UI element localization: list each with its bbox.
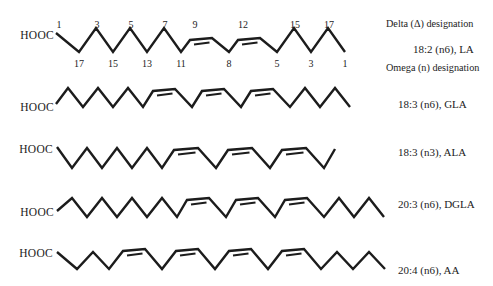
double-bond-la-2 <box>242 43 258 45</box>
carbon-chain-gla <box>56 88 350 107</box>
molecule-dgla: HOOC20:3 (n6), DGLA <box>20 198 475 218</box>
molecule-aa: HOOC20:4 (n6), AA <box>19 247 459 277</box>
carbon-chain-la <box>56 28 345 52</box>
double-bond-gla-3 <box>255 94 271 96</box>
omega-number-la-8: 8 <box>227 58 232 69</box>
omega-designation-caption: Omega (n) designation <box>386 62 479 74</box>
omega-number-la-15: 15 <box>108 58 118 69</box>
double-bond-ala-3 <box>286 153 304 155</box>
delta-number-la-17: 17 <box>324 19 334 30</box>
delta-number-la-9: 9 <box>193 19 198 30</box>
molecule-label-gla: 18:3 (n6), GLA <box>398 98 467 111</box>
hooc-label-la: HOOC <box>20 29 54 41</box>
carbon-chain-aa <box>57 249 385 269</box>
figure-svg: HOOC1173155137119812515317118:2 (n6), LA… <box>0 0 493 286</box>
double-bond-ala-2 <box>232 153 250 155</box>
delta-number-la-1: 1 <box>57 19 62 30</box>
double-bond-aa-4 <box>286 254 302 256</box>
omega-number-la-1: 1 <box>343 58 348 69</box>
delta-number-la-3: 3 <box>95 19 100 30</box>
double-bond-dgla-2 <box>240 203 256 205</box>
omega-number-la-3: 3 <box>309 58 314 69</box>
hooc-label-dgla: HOOC <box>20 206 54 218</box>
double-bond-dgla-3 <box>289 203 305 205</box>
molecule-label-aa: 20:4 (n6), AA <box>398 264 459 277</box>
double-bond-aa-3 <box>233 254 249 256</box>
delta-number-la-7: 7 <box>163 19 168 30</box>
molecule-gla: HOOC18:3 (n6), GLA <box>20 88 467 113</box>
double-bond-ala-1 <box>178 153 196 155</box>
hooc-label-ala: HOOC <box>19 143 53 155</box>
omega-number-la-17: 17 <box>74 58 84 69</box>
double-bond-dgla-1 <box>191 203 207 205</box>
delta-number-la-5: 5 <box>129 19 134 30</box>
hooc-label-aa: HOOC <box>19 247 53 259</box>
omega-number-la-11: 11 <box>176 58 186 69</box>
delta-number-la-12: 12 <box>238 19 248 30</box>
fatty-acid-figure: HOOC1173155137119812515317118:2 (n6), LA… <box>0 0 493 286</box>
double-bond-aa-1 <box>127 254 143 256</box>
molecule-label-la: 18:2 (n6), LA <box>413 43 474 56</box>
double-bond-gla-1 <box>157 94 173 96</box>
double-bond-la-1 <box>194 43 210 45</box>
molecule-label-dgla: 20:3 (n6), DGLA <box>398 198 475 211</box>
omega-number-la-5: 5 <box>275 58 280 69</box>
molecule-label-ala: 18:3 (n3), ALA <box>398 146 466 159</box>
double-bond-gla-2 <box>206 94 222 96</box>
delta-designation-caption: Delta (Δ) designation <box>386 18 473 30</box>
molecule-ala: HOOC18:3 (n3), ALA <box>19 143 466 168</box>
carbon-chain-dgla <box>57 198 384 217</box>
double-bond-aa-2 <box>180 254 196 256</box>
hooc-label-gla: HOOC <box>20 101 54 113</box>
omega-number-la-13: 13 <box>142 58 152 69</box>
delta-number-la-15: 15 <box>290 19 300 30</box>
carbon-chain-ala <box>57 147 335 168</box>
